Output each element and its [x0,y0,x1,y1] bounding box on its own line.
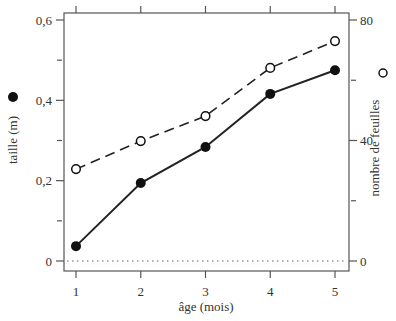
filled-circle-marker [330,65,340,75]
left-legend-filled-circle-icon [8,92,18,102]
filled-circle-marker [201,142,211,152]
open-circle-marker [136,137,145,146]
right-y-tick-label: 0 [360,254,367,269]
x-tick-label: 2 [138,284,145,299]
open-circle-marker [201,112,210,121]
chart: 12345 00,20,40,6 04080 âge (mois) taille… [0,0,396,321]
right-legend-open-circle-icon [379,69,387,77]
x-tick-label: 5 [332,284,339,299]
series-feuilles [72,37,340,174]
filled-circle-marker [136,178,146,188]
x-tick-label: 3 [202,284,209,299]
left-y-tick-label: 0,4 [36,93,53,108]
right-y-tick-label: 80 [360,13,373,28]
x-tick-label: 1 [73,284,80,299]
right-y-axis-label: nombre de feuilles [367,100,382,197]
series-layer [71,37,340,251]
x-tick-label: 4 [267,284,274,299]
left-y-axis: 00,20,40,6 [36,13,64,269]
filled-circle-marker [265,89,275,99]
left-y-tick-label: 0 [46,254,53,269]
x-axis-label: âge (mois) [178,299,233,314]
open-circle-marker [266,64,275,73]
filled-circle-marker [71,241,81,251]
plot-frame [64,13,349,271]
left-y-axis-label: taille (m) [5,116,20,164]
left-y-tick-label: 0,2 [36,173,52,188]
open-circle-marker [331,37,340,46]
series-taille [71,65,340,251]
left-y-tick-label: 0,6 [36,13,53,28]
series-line [76,70,335,246]
open-circle-marker [72,165,81,174]
